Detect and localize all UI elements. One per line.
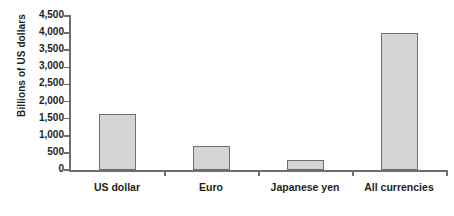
y-axis-tick-label: 1,500	[18, 112, 64, 123]
bar-chart: Billions of US dollars 05001,0001,5002,0…	[0, 0, 454, 216]
x-axis-tick-mark	[446, 170, 448, 176]
bar	[193, 146, 230, 170]
x-axis-category-label: All currencies	[352, 181, 446, 193]
y-axis-tick-label: 4,000	[18, 26, 64, 37]
y-axis-tick-label: 3,500	[18, 43, 64, 54]
y-axis-tick-label: 4,500	[18, 9, 64, 20]
plot-area	[70, 16, 446, 170]
y-axis-tick-label: 2,500	[18, 77, 64, 88]
x-axis-tick-mark	[164, 170, 166, 176]
y-axis-tick-label: 2,000	[18, 95, 64, 106]
y-axis-tick-label: 0	[18, 163, 64, 174]
y-axis-tick-label: 500	[18, 146, 64, 157]
y-axis-tick-label: 3,000	[18, 60, 64, 71]
bar	[99, 114, 136, 170]
y-axis-tick-label: 1,000	[18, 129, 64, 140]
x-axis-category-label: US dollar	[70, 181, 164, 193]
x-axis-tick-mark	[258, 170, 260, 176]
x-axis-tick-mark	[352, 170, 354, 176]
x-axis-category-label: Euro	[164, 181, 258, 193]
bar	[287, 160, 324, 170]
bar	[381, 33, 418, 170]
x-axis-category-label: Japanese yen	[258, 181, 352, 193]
